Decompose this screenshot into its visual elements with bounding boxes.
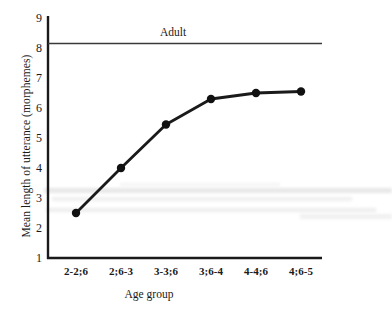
- data-point-4: [207, 95, 215, 103]
- data-point-6: [297, 87, 305, 95]
- x-axis-label: Age group: [0, 288, 345, 300]
- x-tick-label-6: 4;6-5: [272, 266, 330, 277]
- data-point-5: [252, 89, 260, 97]
- data-point-3: [162, 120, 170, 128]
- data-point-2: [117, 164, 125, 172]
- data-point-1: [72, 209, 80, 217]
- data-line: [76, 92, 301, 214]
- chart-figure: Mean length of utterance (morphemes) 9 8…: [0, 0, 392, 312]
